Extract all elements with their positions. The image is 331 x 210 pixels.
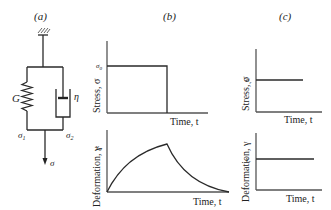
gamma-0-label: γ0 xyxy=(96,143,102,152)
x-axis-label: Time, t xyxy=(170,116,199,127)
dashpot-label-eta: η xyxy=(74,91,79,102)
panel-c-deformation-plot: Deformation, γ γr Time, t xyxy=(240,133,322,204)
panel-c-stress-plot: Stress, σ σr Time, t xyxy=(240,49,322,125)
applied-stress-label: σ xyxy=(50,158,55,168)
stress-sigma-1-label: σ1 xyxy=(18,130,25,141)
panel-c-label: (c) xyxy=(279,10,292,23)
x-axis-label: Time, t xyxy=(193,196,222,207)
x-axis-label: Time, t xyxy=(286,193,315,204)
stress-sigma-2-label: σ2 xyxy=(66,130,73,141)
sigma-0-label: σ0 xyxy=(96,62,102,71)
spring-icon xyxy=(22,67,32,130)
y-axis-label: Stress, σ xyxy=(91,78,102,113)
fixed-wall-icon xyxy=(38,28,50,35)
stress-step-curve xyxy=(107,66,167,113)
panel-c: (c) Stress, σ σr Time, t Deformation, γ … xyxy=(240,10,322,204)
x-axis-label: Time, t xyxy=(284,114,313,125)
force-arrow-icon xyxy=(43,130,48,165)
spring-label-g: G xyxy=(12,92,20,104)
y-axis-label: Deformation, γ xyxy=(240,141,251,202)
panel-b-label: (b) xyxy=(163,10,176,23)
panel-b-deformation-plot: Deformation, γ γ0 Time, t xyxy=(91,130,229,207)
panel-b-creep: (b) Stress, σ σ0 Time, t Deformation, γ … xyxy=(91,10,229,207)
panel-a-label: (a) xyxy=(34,10,47,23)
kelvin-voigt-diagram: (a) G η σ1 σ2 xyxy=(0,0,331,210)
panel-b-stress-plot: Stress, σ σ0 Time, t xyxy=(91,41,208,127)
panel-a-model: (a) G η σ1 σ2 xyxy=(12,10,79,168)
creep-recovery-curve xyxy=(107,144,229,192)
dashpot-icon xyxy=(56,67,70,130)
y-axis-label: Deformation, γ xyxy=(91,146,102,207)
